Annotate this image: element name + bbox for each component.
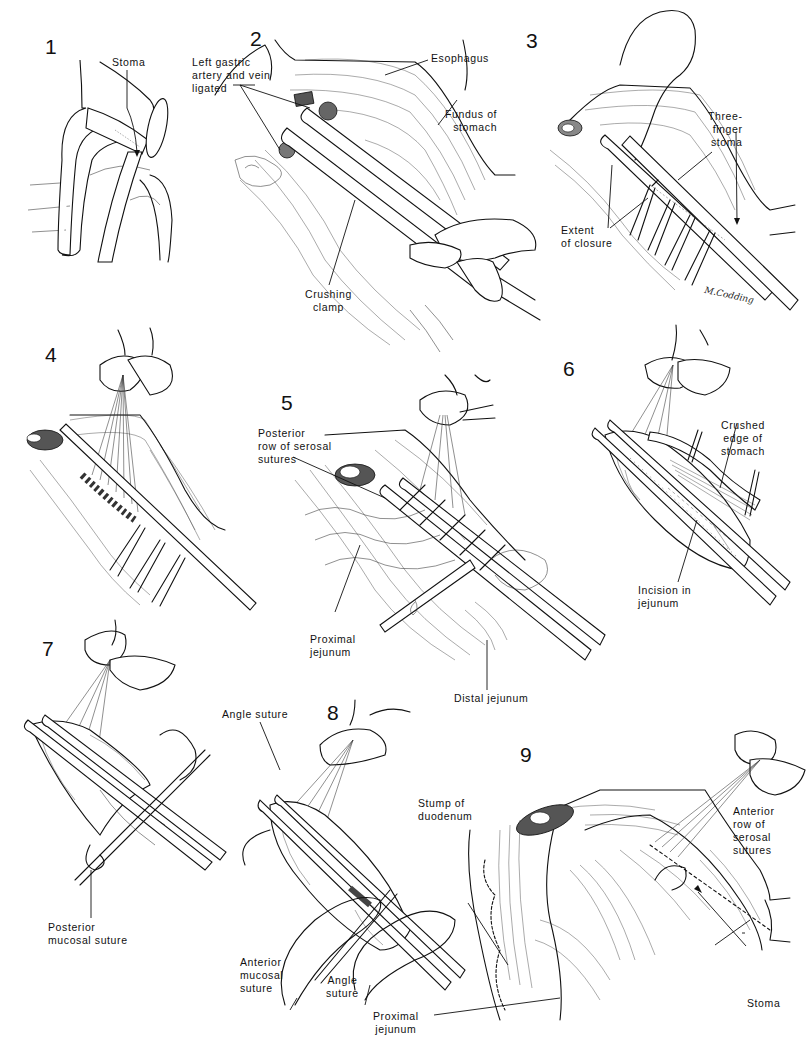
panel-number: 8 — [327, 702, 339, 723]
label-posterior-mucosal-suture: Posterior mucosal suture — [48, 921, 128, 947]
panel-5: 5 Posterior row of serosal sutures Proxi… — [225, 340, 585, 670]
panel-1: 1 Stoma — [0, 0, 210, 290]
label-posterior-row-of-serosal-sutures: Posterior row of serosal sutures — [258, 427, 332, 466]
label-three-finger-stoma: Three- finger stoma — [708, 110, 743, 149]
label-stoma: Stoma — [747, 997, 780, 1010]
label-proximal-jejunum: Proximal jejunum — [373, 1010, 419, 1036]
label-angle-suture-bottom: Angle suture — [326, 974, 359, 1000]
panel-9: 9 Stump of duodenum Anterior row of sero… — [440, 720, 809, 1037]
panel-9-drawing — [440, 720, 809, 1037]
panel-number: 6 — [563, 358, 575, 379]
panel-7-drawing — [0, 620, 240, 950]
label-anterior-row-of-serosal-sutures: Anterior row of serosal sutures — [733, 805, 775, 857]
label-crushing-clamp: Crushing clamp — [305, 288, 352, 314]
panel-3-drawing — [530, 0, 809, 330]
label-angle-suture-top: Angle suture — [222, 708, 288, 721]
panel-5-drawing — [225, 340, 585, 670]
label-crushed-edge-of-stomach: Crushed edge of stomach — [721, 419, 765, 458]
panel-number: 9 — [520, 744, 532, 765]
label-extent-of-closure: Extent of closure — [561, 224, 613, 250]
label-anterior-mucosal-suture: Anterior mucosal suture — [240, 956, 283, 995]
panel-8: 8 Angle suture Anterior mucosal suture A… — [215, 700, 475, 1037]
panel-number: 4 — [45, 344, 57, 365]
panel-7: 7 Posterior mucosal suture — [0, 620, 240, 950]
label-esophagus: Esophagus — [431, 52, 489, 65]
panel-3: 3 Three- finger stoma Extent of closure … — [530, 0, 809, 330]
label-proximal-jejunum: Proximal jejunum — [310, 633, 356, 659]
label-stump-of-duodenum: Stump of duodenum — [418, 797, 472, 823]
panel-2: 2 Left gastric artery and vein ligated E… — [195, 0, 540, 360]
label-stoma: Stoma — [112, 56, 145, 69]
panel-number: 1 — [45, 36, 57, 57]
label-left-gastric-artery-and-vein-ligated: Left gastric artery and vein ligated — [192, 56, 270, 95]
label-fundus-of-stomach: Fundus of stomach — [445, 108, 497, 134]
panel-number: 3 — [526, 30, 538, 51]
panel-number: 5 — [281, 392, 293, 413]
panel-6: 6 Crushed edge of stomach Incision in je… — [560, 320, 809, 640]
panel-number: 2 — [250, 28, 262, 49]
label-incision-in-jejunum: Incision in jejunum — [638, 584, 691, 610]
panel-number: 7 — [42, 638, 54, 659]
panel-1-drawing — [0, 0, 210, 290]
